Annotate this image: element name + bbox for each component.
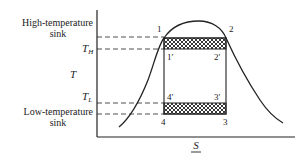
point-2prime-label: 2′ <box>214 52 221 62</box>
point-1-label: 1 <box>157 24 162 34</box>
ts-diagram: High-temperature sink TH T TL Low-temper… <box>0 0 304 160</box>
point-4prime-label: 4′ <box>167 92 174 102</box>
point-3prime-label: 3′ <box>214 92 221 102</box>
point-3-label: 3 <box>223 117 228 127</box>
point-4-label: 4 <box>161 117 166 127</box>
x-axis-label: S <box>193 139 199 151</box>
y-axis-label: T <box>70 68 77 80</box>
point-2-label: 2 <box>229 24 234 34</box>
high-sink-label-line1: High-temperature <box>22 17 94 28</box>
point-1prime-label: 1′ <box>167 52 174 62</box>
low-temp-hatched-band <box>164 103 226 114</box>
low-sink-label-line2: sink <box>50 117 67 128</box>
high-temp-hatched-band <box>164 38 226 49</box>
high-sink-label-line2: sink <box>50 28 67 39</box>
t-high-label: TH <box>82 42 94 56</box>
low-sink-label-line1: Low-temperature <box>24 106 94 117</box>
t-low-label: TL <box>82 90 92 104</box>
